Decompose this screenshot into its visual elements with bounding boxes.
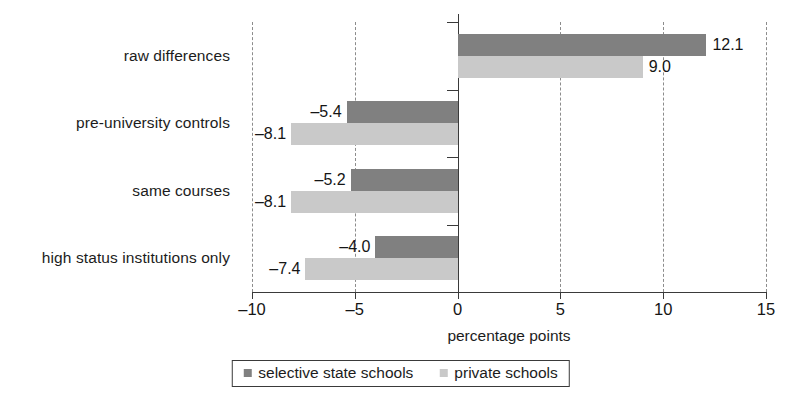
x-axis-tick — [355, 292, 356, 299]
zero-axis-tick — [447, 157, 458, 158]
bar — [291, 123, 458, 145]
bar-value-label: 9.0 — [649, 59, 671, 75]
category-label: raw differences — [0, 48, 244, 64]
x-axis-tick-label: 10 — [654, 301, 672, 318]
gridline — [252, 22, 253, 292]
x-axis-tick — [766, 292, 767, 299]
bar-value-label: –7.4 — [269, 261, 300, 277]
legend-label: private schools — [454, 365, 557, 381]
bar-value-label: –8.1 — [255, 126, 286, 142]
category-label: high status institutions only — [0, 250, 244, 266]
bar-value-label: –5.2 — [315, 172, 346, 188]
bar-value-label: –4.0 — [339, 239, 370, 255]
bar-value-label: –8.1 — [255, 194, 286, 210]
x-axis-tick-label: –5 — [346, 301, 364, 318]
legend-item: selective state schools — [243, 365, 413, 381]
bar-chart-figure: raw differencespre-university controlssa… — [0, 0, 801, 407]
bar — [305, 258, 457, 280]
zero-axis-tick — [447, 90, 458, 91]
x-axis-tick — [458, 292, 459, 299]
legend-swatch-icon — [243, 369, 251, 377]
x-axis-tick — [560, 292, 561, 299]
bar — [347, 101, 458, 123]
bar — [458, 34, 707, 56]
bar-value-label: –5.4 — [310, 104, 341, 120]
x-axis-tick — [663, 292, 664, 299]
zero-axis-tick — [447, 225, 458, 226]
x-axis-line — [252, 292, 766, 293]
bar — [351, 169, 458, 191]
category-label: pre-university controls — [0, 115, 244, 131]
bar — [458, 56, 643, 78]
x-axis-tick — [252, 292, 253, 299]
x-axis-tick-label: 5 — [556, 301, 565, 318]
category-label: same courses — [0, 183, 244, 199]
gridline — [766, 22, 767, 292]
plot-area: 12.19.0–5.4–8.1–5.2–8.1–4.0–7.4 — [252, 22, 766, 292]
category-axis-labels: raw differencespre-university controlssa… — [0, 22, 244, 292]
chart-legend: selective state schoolsprivate schools — [231, 360, 569, 387]
x-axis-tick-label: 15 — [757, 301, 775, 318]
x-axis-title: percentage points — [252, 327, 766, 345]
bar — [291, 191, 458, 213]
legend-label: selective state schools — [258, 365, 413, 381]
legend-swatch-icon — [439, 369, 447, 377]
x-axis-tick-label: 0 — [453, 301, 462, 318]
legend-item: private schools — [439, 365, 557, 381]
x-axis-tick-label: –10 — [238, 301, 266, 318]
bar-value-label: 12.1 — [712, 37, 743, 53]
zero-axis-tick — [447, 22, 458, 23]
bar — [375, 236, 457, 258]
